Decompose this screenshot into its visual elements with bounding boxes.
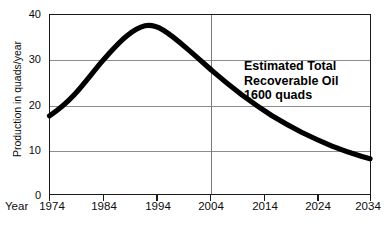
x-tick-label-2014: 2014 [252, 200, 278, 212]
annotation-line-2: Recoverable Oil [244, 74, 339, 89]
x-tick-label-2004: 2004 [198, 200, 224, 212]
y-tick-label-40: 40 [29, 9, 41, 20]
y-tick-label-10: 10 [29, 145, 41, 156]
y-tick-label-30: 30 [29, 54, 41, 65]
gridline-y-20 [50, 106, 370, 107]
x-tick-label-2024: 2024 [305, 200, 331, 212]
annotation-line-3: 1600 quads [244, 88, 339, 103]
oil-production-chart: Estimated Total Recoverable Oil 1600 qua… [0, 0, 389, 225]
gridline-y-10 [50, 151, 370, 152]
annotation-line-1: Estimated Total [244, 59, 339, 74]
y-axis-title: Production in quads/year [11, 11, 23, 187]
gridline-x-2004 [211, 15, 212, 194]
x-tick-label-1974: 1974 [39, 200, 65, 212]
x-tick-label-1984: 1984 [91, 200, 117, 212]
annotation-estimated-total-recoverable-oil: Estimated Total Recoverable Oil 1600 qua… [244, 59, 339, 103]
x-tick-label-2034: 2034 [355, 200, 381, 212]
x-tick-label-1994: 1994 [145, 200, 171, 212]
x-axis-title: Year [5, 200, 28, 212]
plot-area: Estimated Total Recoverable Oil 1600 qua… [49, 14, 371, 195]
y-tick-label-20: 20 [29, 100, 41, 111]
